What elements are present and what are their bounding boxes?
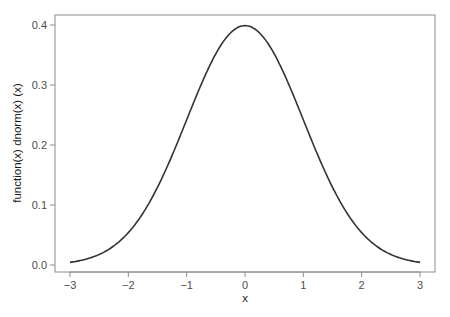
density-curve	[70, 26, 420, 263]
y-tick-label: 0.1	[32, 199, 47, 211]
x-tick-label: 1	[300, 279, 306, 291]
chart-canvas: −3−2−10123 0.00.10.20.30.4 x function(x)…	[0, 0, 450, 317]
x-tick-label: 3	[417, 279, 423, 291]
plot-box	[55, 15, 435, 272]
y-tick-label: 0.4	[32, 19, 47, 31]
x-axis: −3−2−10123	[64, 272, 423, 291]
y-axis-label: function(x) dnorm(x) (x)	[11, 83, 23, 203]
x-axis-label: x	[242, 292, 248, 304]
x-tick-label: −1	[180, 279, 193, 291]
y-tick-label: 0.0	[32, 259, 47, 271]
x-tick-label: −2	[122, 279, 135, 291]
x-tick-label: 0	[242, 279, 248, 291]
y-tick-label: 0.2	[32, 139, 47, 151]
y-axis: 0.00.10.20.30.4	[32, 19, 55, 271]
y-tick-label: 0.3	[32, 79, 47, 91]
x-tick-label: 2	[359, 279, 365, 291]
x-tick-label: −3	[64, 279, 77, 291]
